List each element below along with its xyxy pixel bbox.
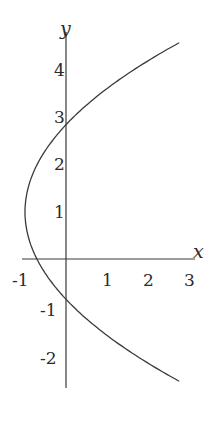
x-tick-label: 1: [102, 270, 113, 290]
parabola-chart: x y -1 1 2 3 4 3 2 1 -1 -2: [0, 0, 221, 422]
parabola-curve: [25, 43, 179, 381]
x-tick-label: 3: [184, 270, 195, 290]
y-axis-label: y: [59, 17, 71, 39]
y-tick-label: -2: [40, 348, 57, 368]
y-tick-label: 2: [54, 154, 65, 174]
x-tick-label: -1: [12, 270, 29, 290]
y-tick-label: 4: [54, 60, 65, 80]
y-tick-label: 1: [54, 202, 65, 222]
y-tick-label: 3: [54, 107, 65, 127]
y-tick-label: -1: [40, 300, 57, 320]
x-axis-label: x: [193, 240, 204, 262]
x-tick-label: 2: [143, 270, 154, 290]
